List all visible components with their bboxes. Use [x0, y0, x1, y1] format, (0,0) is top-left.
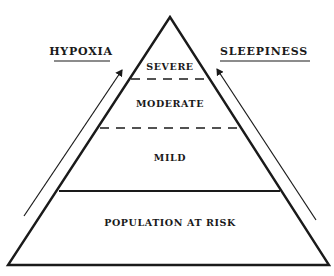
level-moderate-label: MODERATE — [136, 98, 204, 109]
hypoxia-arrow-icon — [24, 70, 122, 216]
hypoxia-label: HYPOXIA — [49, 45, 113, 58]
level-mild-label: MILD — [154, 152, 186, 163]
level-population-label: POPULATION AT RISK — [104, 217, 236, 228]
sleepiness-label: SLEEPINESS — [220, 45, 308, 58]
sleepiness-arrow-icon — [217, 69, 316, 220]
pyramid-diagram: HYPOXIA SLEEPINESS SEVERE MODERATE MILD … — [0, 0, 334, 276]
level-severe-label: SEVERE — [146, 61, 193, 72]
